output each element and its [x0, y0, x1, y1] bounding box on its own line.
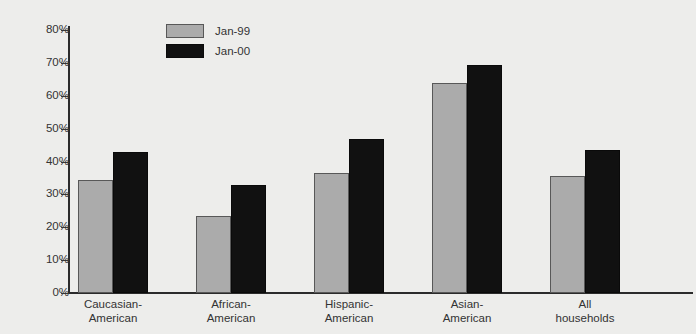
y-axis-tick-label: 60%	[29, 90, 69, 101]
legend-label-jan-00: Jan-00	[215, 45, 250, 57]
bar	[585, 150, 620, 293]
y-axis-tick: 50%	[0, 129, 69, 130]
y-axis-tick-label: 10%	[29, 254, 69, 265]
bar	[196, 216, 231, 293]
y-axis-tick: 70%	[0, 63, 69, 64]
legend-item: Jan-99	[166, 22, 250, 39]
legend-label-jan-99: Jan-99	[215, 25, 250, 37]
y-axis-tick: 10%	[0, 260, 69, 261]
legend: Jan-99 Jan-00	[166, 22, 250, 62]
legend-swatch-jan-99	[166, 24, 204, 38]
y-axis-tick-label: 40%	[29, 156, 69, 167]
y-axis-tick: 20%	[0, 227, 69, 228]
plot-area: 80%70%60%50%40%30%20%10%0% Caucasian- Am…	[0, 0, 696, 334]
bar	[231, 185, 266, 293]
y-axis-tick-label: 80%	[29, 24, 69, 35]
legend-item: Jan-00	[166, 42, 250, 59]
bar	[467, 65, 502, 293]
bar	[78, 180, 113, 293]
x-axis-category-label: Caucasian- American	[48, 297, 178, 325]
bar	[349, 139, 384, 294]
y-axis-tick-label: 70%	[29, 57, 69, 68]
y-axis-tick: 60%	[0, 96, 69, 97]
bar	[550, 176, 585, 293]
x-axis-category-label: All households	[520, 297, 650, 325]
y-axis-tick: 40%	[0, 162, 69, 163]
x-axis-category-label: Asian- American	[402, 297, 532, 325]
bar-chart: 80%70%60%50%40%30%20%10%0% Caucasian- Am…	[0, 0, 696, 334]
y-axis-tick-label: 50%	[29, 123, 69, 134]
y-axis-tick: 30%	[0, 194, 69, 195]
y-axis-tick: 80%	[0, 30, 69, 31]
y-axis-tick: 0%	[0, 293, 69, 294]
legend-swatch-jan-00	[166, 44, 204, 58]
bar	[314, 173, 349, 293]
bar	[113, 152, 148, 293]
y-axis-tick-label: 20%	[29, 221, 69, 232]
bar	[432, 83, 467, 293]
x-axis-category-label: African- American	[166, 297, 296, 325]
y-axis-tick-label: 30%	[29, 188, 69, 199]
x-axis-category-label: Hispanic- American	[284, 297, 414, 325]
